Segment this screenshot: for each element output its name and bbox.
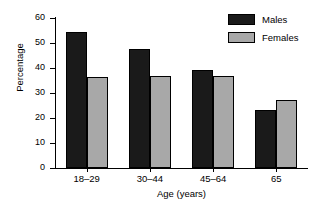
y-tick-label: 60 [23,13,45,22]
y-tick-label: 50 [23,38,45,47]
x-axis-line [55,168,308,169]
bar-males-1 [129,49,150,168]
y-tick-label: 10 [23,138,45,147]
chart-legend: MalesFemales [228,12,298,48]
x-tick-label: 18–29 [57,173,117,184]
legend-item: Males [228,12,298,27]
y-tick-label: 20 [23,113,45,122]
x-tick-label: 65 [246,173,306,184]
bar-males-2 [192,70,213,168]
x-tick-mark [276,168,277,172]
y-tick-label: 0 [23,163,45,172]
bar-males-3 [255,110,276,168]
bar-females-2 [213,76,234,169]
x-tick-label: 45–64 [183,173,243,184]
legend-label: Males [262,14,287,25]
bar-females-1 [150,76,171,168]
legend-item: Females [228,30,298,45]
x-tick-label: 30–44 [120,173,180,184]
x-axis-label: Age (years) [55,188,308,199]
y-tick-mark [50,168,55,169]
x-tick-mark [87,168,88,172]
legend-label: Females [262,32,298,43]
legend-swatch-males [228,14,255,25]
y-tick-label: 30 [23,88,45,97]
bar-females-3 [276,100,297,168]
bar-females-0 [87,77,108,168]
bar-chart: 0102030405060 Percentage 18–2930–4445–64… [0,0,318,210]
x-tick-mark [150,168,151,172]
bar-males-0 [66,32,87,168]
y-tick-label: 40 [23,63,45,72]
legend-swatch-females [228,32,255,43]
x-tick-mark [213,168,214,172]
y-axis-label: Percentage [14,18,25,118]
